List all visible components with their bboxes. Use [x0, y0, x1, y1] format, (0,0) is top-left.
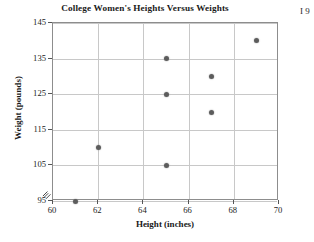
y-axis-tick-labels: 95105115125135145: [12, 22, 46, 200]
y-tick-label: 125: [16, 88, 46, 98]
x-tick-label: 62: [82, 205, 112, 215]
data-point[interactable]: [164, 56, 169, 61]
gridline-horizontal: [53, 130, 277, 131]
data-point[interactable]: [164, 163, 169, 168]
scatter-plot-figure: College Women's Heights Versus Weights W…: [0, 0, 314, 242]
x-tick-mark: [278, 200, 279, 204]
x-tick-mark: [142, 200, 143, 204]
x-tick-label: 68: [218, 205, 248, 215]
x-tick-mark: [52, 200, 53, 204]
data-point[interactable]: [96, 145, 101, 150]
right-margin-fragment: I 9: [300, 5, 314, 18]
data-point[interactable]: [209, 74, 214, 79]
x-axis-label: Height (inches): [40, 219, 290, 229]
y-tick-label: 145: [16, 17, 46, 27]
y-tick-label: 115: [16, 124, 46, 134]
x-tick-label: 64: [127, 205, 157, 215]
x-tick-mark: [233, 200, 234, 204]
gridline-vertical: [234, 23, 235, 199]
plot-inner: [53, 23, 277, 199]
axis-break-icon: [41, 184, 57, 200]
x-tick-mark: [188, 200, 189, 204]
x-tick-mark: [97, 200, 98, 204]
gridline-vertical: [143, 23, 144, 199]
y-tick-label: 105: [16, 159, 46, 169]
x-tick-label: 60: [37, 205, 67, 215]
gridline-vertical: [98, 23, 99, 199]
data-point[interactable]: [209, 110, 214, 115]
gridline-horizontal: [53, 23, 277, 24]
x-tick-label: 66: [173, 205, 203, 215]
chart-title: College Women's Heights Versus Weights: [0, 3, 290, 13]
data-point[interactable]: [254, 38, 259, 43]
y-tick-label: 135: [16, 53, 46, 63]
x-tick-label: 70: [263, 205, 293, 215]
gridline-vertical: [189, 23, 190, 199]
x-axis-tick-labels: 606264666870: [52, 205, 278, 217]
plot-area: [52, 22, 278, 200]
data-point[interactable]: [164, 92, 169, 97]
